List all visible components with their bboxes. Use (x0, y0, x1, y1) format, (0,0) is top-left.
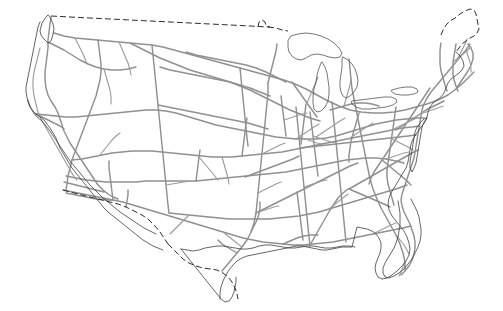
us-interstate-highway-map (0, 0, 503, 311)
map-canvas (0, 0, 503, 311)
